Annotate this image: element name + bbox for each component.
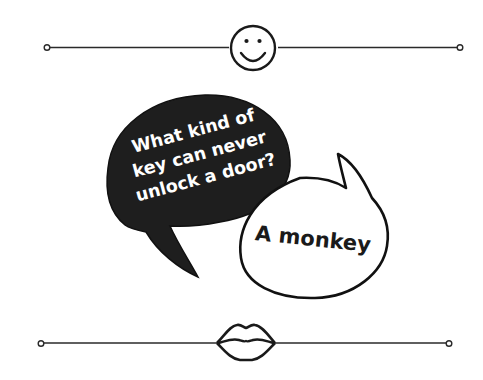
lips-icon: [217, 325, 275, 360]
smiley-face-icon: [231, 26, 275, 70]
bottom-divider: [38, 325, 452, 360]
divider-endpoint-dot: [457, 45, 463, 51]
divider-endpoint-dot: [38, 341, 44, 347]
divider-endpoint-dot: [446, 341, 452, 347]
top-divider: [44, 26, 463, 70]
divider-endpoint-dot: [44, 45, 50, 51]
joke-illustration: What kind of key can never unlock a door…: [0, 0, 483, 380]
